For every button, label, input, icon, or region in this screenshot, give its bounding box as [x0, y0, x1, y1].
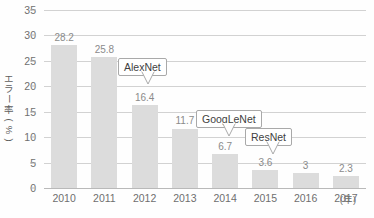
- bar-value-label: 25.8: [95, 44, 114, 55]
- y-axis-tick-mark: [30, 10, 36, 11]
- x-axis-tick-label: 2010: [52, 192, 75, 204]
- gridline: [44, 35, 366, 36]
- x-axis-tick-label: 2011: [93, 192, 116, 204]
- y-axis-tick-mark: [30, 86, 36, 87]
- bar: [132, 105, 158, 188]
- bar-value-label: 6.7: [218, 141, 232, 152]
- bar: [212, 154, 238, 188]
- bar-value-label: 2.3: [339, 163, 353, 174]
- y-axis-tick-mark: [30, 35, 36, 36]
- y-axis-tick-mark: [30, 162, 36, 163]
- x-axis-tick-label: 2013: [173, 192, 196, 204]
- y-axis-ticks: 05101520253035: [0, 10, 36, 188]
- y-axis-tick-mark: [30, 188, 36, 189]
- bar: [172, 129, 198, 189]
- bar: [333, 176, 359, 188]
- y-axis-tick-mark: [30, 137, 36, 138]
- gridline: [44, 10, 366, 11]
- bar: [293, 173, 319, 188]
- y-axis-tick-mark: [30, 60, 36, 61]
- bar-value-label: 3.6: [258, 157, 272, 168]
- x-axis-tick-label: 2015: [254, 192, 277, 204]
- bar-value-label: 16.4: [135, 92, 154, 103]
- y-axis-tick-mark: [30, 111, 36, 112]
- bar-value-label: 11.7: [176, 115, 195, 126]
- bar: [91, 57, 117, 188]
- bar-value-label: 28.2: [54, 32, 73, 43]
- bar-value-label: 3: [303, 160, 309, 171]
- x-axis-tick-label: 2012: [133, 192, 156, 204]
- bar: [252, 170, 278, 188]
- plot-area: 28.225.816.411.76.73.632.3: [44, 10, 366, 188]
- x-axis-tick-label: 2014: [213, 192, 236, 204]
- error-rate-bar-chart: エラー率(%) 05101520253035 28.225.816.411.76…: [0, 0, 374, 218]
- x-axis-unit-label: (年): [340, 192, 356, 206]
- bar: [51, 45, 77, 188]
- callout-tail-icon: [222, 123, 236, 137]
- x-axis-tick-label: 2016: [294, 192, 317, 204]
- callout-tail-icon: [141, 71, 155, 85]
- callout-tail-icon: [266, 141, 280, 155]
- gridline: [44, 188, 366, 189]
